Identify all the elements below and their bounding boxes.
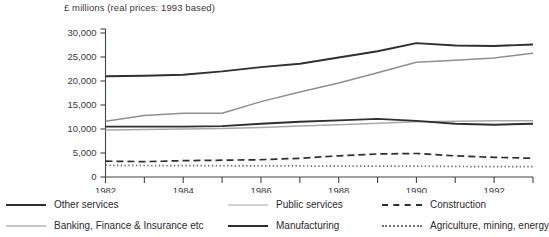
y-tick-label: 30,000 xyxy=(67,27,96,38)
legend-column-3: Construction Agriculture, mining, energy xyxy=(382,194,549,236)
x-tick-label: 1990 xyxy=(406,185,427,193)
data-series-group xyxy=(106,43,534,167)
legend-item-agriculture-mining-energy: Agriculture, mining, energy xyxy=(382,215,549,236)
legend-column-1: Other services Banking, Finance & Insura… xyxy=(6,194,204,236)
y-tick-label: 10,000 xyxy=(67,123,96,134)
legend-line-icon-other-services xyxy=(6,199,46,211)
plot-area: 05,00010,00015,00020,00025,00030,000 198… xyxy=(0,18,548,193)
legend-column-2: Public services Manufacturing xyxy=(228,194,343,236)
series-line-banking-finance-insurance-etc xyxy=(106,53,534,121)
legend-label: Other services xyxy=(54,200,118,210)
legend-line-icon-public-services xyxy=(228,199,268,211)
x-tick-label: 1982 xyxy=(95,185,116,193)
y-tick-label: 20,000 xyxy=(67,75,96,86)
legend-line-icon-construction xyxy=(382,199,422,211)
legend-label: Public services xyxy=(276,200,343,210)
chart-units-title: £ millions (real prices: 1993 based) xyxy=(64,2,215,13)
y-tick-label: 5,000 xyxy=(73,147,97,158)
legend-label: Agriculture, mining, energy xyxy=(430,221,549,231)
y-tick-label: 0 xyxy=(91,171,96,182)
legend-item-construction: Construction xyxy=(382,194,549,215)
legend-item-banking-finance-insurance: Banking, Finance & Insurance etc xyxy=(6,215,204,236)
series-line-agriculture-mining-energy xyxy=(106,165,534,166)
series-line-public-services xyxy=(106,121,534,130)
chart-legend: Other services Banking, Finance & Insura… xyxy=(0,194,548,237)
legend-item-public-services: Public services xyxy=(228,194,343,215)
legend-label: Banking, Finance & Insurance etc xyxy=(54,221,204,231)
x-tick-label: 1984 xyxy=(173,185,194,193)
y-axis: 05,00010,00015,00020,00025,00030,000 xyxy=(67,27,105,182)
x-axis: 198219841986198819901992 xyxy=(95,177,533,193)
legend-label: Construction xyxy=(430,200,486,210)
legend-item-other-services: Other services xyxy=(6,194,204,215)
legend-line-icon-banking-finance-insurance xyxy=(6,220,46,232)
y-tick-label: 15,000 xyxy=(67,99,96,110)
series-line-construction xyxy=(106,153,534,161)
legend-line-icon-manufacturing xyxy=(228,220,268,232)
y-tick-label: 25,000 xyxy=(67,51,96,62)
legend-item-manufacturing: Manufacturing xyxy=(228,215,343,236)
legend-label: Manufacturing xyxy=(276,221,339,231)
chart-svg: 05,00010,00015,00020,00025,00030,000 198… xyxy=(0,18,548,193)
x-tick-label: 1986 xyxy=(250,185,271,193)
x-tick-label: 1988 xyxy=(328,185,349,193)
legend-line-icon-agriculture-mining-energy xyxy=(382,220,422,232)
x-tick-label: 1992 xyxy=(484,185,505,193)
